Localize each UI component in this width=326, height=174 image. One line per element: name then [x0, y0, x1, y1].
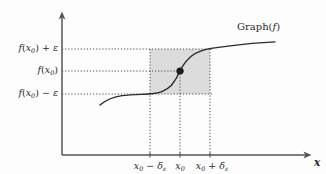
continuity-diagram: f(x0) + ε f(x0) f(x0) − ε x0 − δε x0 x0 …	[0, 0, 326, 174]
x-axis	[62, 152, 312, 159]
x-label-0-symsub: ε	[163, 165, 166, 172]
y-label-f-x0-plus-eps: f(x0) + ε	[0, 43, 58, 54]
graph-f-label: Graph(f)	[237, 22, 280, 32]
x-label-2-op: +	[205, 160, 219, 171]
graph-label-text: Graph(	[237, 21, 272, 32]
y-label-f-x0: f(x0)	[0, 65, 58, 76]
y-label-2-op: −	[39, 87, 53, 98]
x-label-x0-plus-delta: x0 + δε	[196, 161, 228, 172]
y-label-2-eps: ε	[53, 87, 58, 98]
x-label-0-op: −	[143, 160, 157, 171]
x-label-1-sub: 0	[181, 165, 185, 173]
marked-point-x0	[176, 67, 183, 74]
x-axis-name-label: x	[314, 157, 320, 168]
y-axis	[59, 12, 66, 156]
y-label-0-eps: ε	[53, 42, 58, 53]
graph-label-close: )	[276, 21, 280, 32]
y-label-f-x0-minus-eps: f(x0) − ε	[0, 88, 58, 99]
y-label-0-op: +	[39, 42, 53, 53]
x-label-2-symsub: ε	[225, 165, 228, 172]
x-label-x0: x0	[175, 161, 184, 172]
y-label-1-close: )	[54, 64, 58, 75]
x-label-x0-minus-delta: x0 − δε	[134, 161, 166, 172]
